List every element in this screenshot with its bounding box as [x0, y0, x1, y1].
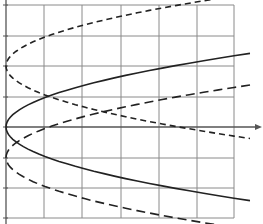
long-dash-parabola: [6, 85, 250, 224]
x-axis-arrow-icon: [255, 124, 262, 130]
grid-lines: [6, 5, 234, 218]
curves: [6, 0, 250, 224]
axes: [3, 0, 262, 224]
parabola-diagram: [0, 0, 263, 224]
short-dash-parabola: [6, 0, 250, 139]
